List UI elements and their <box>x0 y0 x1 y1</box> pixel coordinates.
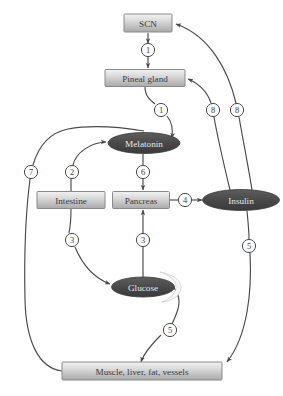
glucose-label: Glucose <box>128 283 158 293</box>
edge-insulin-to-tissues-b <box>227 253 250 362</box>
edge-intestine-to-melatonin-b <box>73 142 106 165</box>
diagram-canvas: SCN Pineal gland Melatonin Intestine Pan… <box>0 0 283 396</box>
node-glucose[interactable]: Glucose <box>112 272 182 302</box>
edge-badge-text: 7 <box>29 168 33 177</box>
edge-badge-text: 1 <box>159 106 163 115</box>
edge-badge-text: 8 <box>211 106 215 115</box>
insulin-label: Insulin <box>228 196 254 206</box>
node-pancreas[interactable]: Pancreas <box>113 192 170 209</box>
edge-badge-8-insulin-scn: 8 <box>230 103 243 116</box>
scn-label: SCN <box>139 19 157 29</box>
edge-badge-3-intestine-glucose: 3 <box>65 233 78 246</box>
edge-badge-text: 6 <box>141 168 145 177</box>
edge-badge-text: 3 <box>70 236 74 245</box>
intestine-label: Intestine <box>55 196 87 206</box>
pineal-gland-label: Pineal gland <box>122 74 168 84</box>
node-layer: SCN Pineal gland Melatonin Intestine Pan… <box>37 14 280 380</box>
edge-glucose-to-tissues-b <box>141 335 161 362</box>
edge-badge-3-glucose-pancreas: 3 <box>136 233 149 246</box>
edge-intestine-to-glucose <box>69 209 71 233</box>
diagram-svg: SCN Pineal gland Melatonin Intestine Pan… <box>0 0 283 396</box>
edge-badge-1-scn-pineal: 1 <box>141 43 154 56</box>
node-tissues[interactable]: Muscle, liver, fat, vessels <box>62 362 222 380</box>
edge-badge-text: 3 <box>141 236 145 245</box>
edge-badge-6-melatonin-pancreas: 6 <box>136 165 149 178</box>
edge-badge-1-pineal-melatonin: 1 <box>154 103 167 116</box>
node-intestine[interactable]: Intestine <box>37 192 105 209</box>
edge-badge-8-insulin-pineal: 8 <box>206 103 219 116</box>
edge-insulin-to-tissues <box>247 211 249 239</box>
edge-insulin-to-pineal <box>214 117 230 190</box>
edge-pineal-to-melatonin-b <box>167 116 172 138</box>
node-scn[interactable]: SCN <box>124 14 172 32</box>
edge-insulin-to-pineal-b <box>188 79 211 103</box>
edge-insulin-to-scn <box>239 117 252 190</box>
node-insulin[interactable]: Insulin <box>203 190 280 211</box>
edge-badge-text: 5 <box>247 242 251 251</box>
edge-badge-text: 5 <box>168 326 172 335</box>
edge-pineal-to-melatonin <box>145 87 155 104</box>
pancreas-label: Pancreas <box>125 196 158 206</box>
melatonin-label: Melatonin <box>125 139 163 149</box>
edge-badge-text: 2 <box>70 168 74 177</box>
edge-badge-5-insulin-tissues: 5 <box>242 239 255 252</box>
tissues-label: Muscle, liver, fat, vessels <box>95 367 188 377</box>
node-pineal-gland[interactable]: Pineal gland <box>105 70 185 87</box>
edge-intestine-to-glucose-b <box>75 247 110 284</box>
edge-badge-2-intestine-melatonin: 2 <box>65 165 78 178</box>
edge-badge-text: 8 <box>235 106 239 115</box>
edge-insulin-to-scn-b <box>176 24 236 103</box>
edge-badge-4-pancreas-insulin: 4 <box>178 193 191 206</box>
edge-badge-5-glucose-tissues: 5 <box>163 323 176 336</box>
edge-badge-text: 1 <box>146 46 150 55</box>
edge-badge-7-tissues-melatonin: 7 <box>24 165 37 178</box>
node-melatonin[interactable]: Melatonin <box>108 133 180 154</box>
